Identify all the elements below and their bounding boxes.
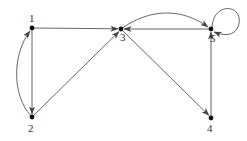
edge-2-to-3: [32, 32, 119, 118]
node-1: [30, 26, 35, 31]
node-label-5: 5: [210, 33, 216, 44]
node-4: [209, 116, 214, 121]
node-label-4: 4: [207, 123, 213, 134]
node-label-3: 3: [120, 32, 126, 43]
edge-5-self-loop: [212, 9, 239, 35]
edge-3-to-4: [121, 29, 209, 116]
directed-graph: [0, 0, 247, 141]
node-2: [30, 115, 35, 120]
edge-1-to-3: [32, 28, 118, 29]
edge-2-to-1: [17, 31, 31, 116]
node-label-1: 1: [29, 13, 35, 24]
edge-3-to-5: [121, 13, 208, 29]
node-5: [209, 27, 214, 32]
node-label-2: 2: [28, 123, 34, 134]
